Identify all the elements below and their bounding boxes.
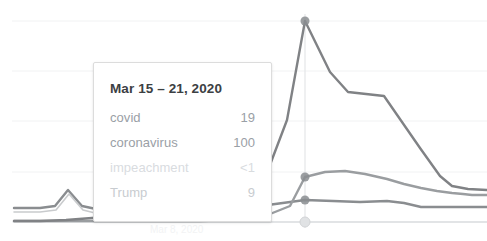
marker-trump [301,196,310,205]
marker-covid [301,173,310,182]
trends-chart: Mar 8, 2020 Mar 15 – 21, 2020 covid 19 c… [0,0,487,241]
tooltip-row: impeachment <1 [110,160,255,185]
x-axis-ghost-label: Mar 8, 2020 [150,224,203,235]
tooltip-term-label: impeachment [110,160,189,175]
tooltip-term-value: 19 [240,110,255,125]
tooltip-date-range: Mar 15 – 21, 2020 [110,81,255,96]
tooltip-term-label: coronavirus [110,135,178,150]
tooltip-term-label: Trump [110,185,147,200]
tooltip-term-value: <1 [240,160,255,175]
tooltip-row: Trump 9 [110,185,255,210]
tooltip-term-value: 100 [233,135,255,150]
tooltip-row: coronavirus 100 [110,135,255,160]
tooltip-term-label: covid [110,110,141,125]
tooltip-term-value: 9 [248,185,255,200]
tooltip-row: covid 19 [110,110,255,135]
marker-impeachment [300,217,310,227]
chart-tooltip: Mar 15 – 21, 2020 covid 19 coronavirus 1… [93,62,272,222]
marker-coronavirus [301,17,310,26]
